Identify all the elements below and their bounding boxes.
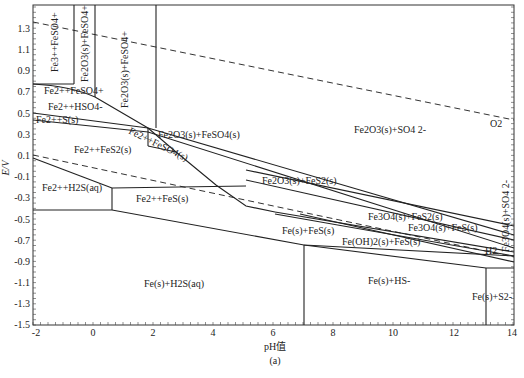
x-tick: 6	[271, 327, 276, 338]
region-label: Fe2++H2S(aq)	[42, 182, 102, 194]
y-tick: -0.7	[14, 235, 30, 246]
region-label: Fe(OH)2(s)+FeS(s)	[342, 236, 420, 248]
y-tick: 0.9	[18, 65, 31, 76]
region-label: Fe2O3(s)+FeSO4+	[119, 31, 131, 108]
x-tick: 0	[91, 327, 96, 338]
y-minor-ticks	[33, 7, 514, 325]
y-tick-labels: 1.3 1.1 0.9 0.7 0.5 0.3 0.1 -0.1 -0.3 -0…	[14, 23, 30, 330]
y-tick: 0.5	[18, 108, 31, 119]
y-tick: -1.1	[14, 277, 30, 288]
x-axis-label: pH值	[264, 340, 286, 352]
x-tick: 14	[507, 327, 517, 338]
region-label: Fe2++FeS2(s)	[74, 144, 131, 156]
region-labels: Fe3++FeSO4+ Fe2O3(s)+FeSO4+ Fe2O3(s)+FeS…	[36, 5, 512, 303]
region-label: Fe2O3(s)+FeSO4+	[79, 5, 91, 82]
x-tick: 8	[331, 327, 336, 338]
region-label: Fe(s)+FeS(s)	[282, 225, 334, 237]
phase-boundaries	[33, 5, 514, 325]
x-tick: 10	[388, 327, 398, 338]
o2-label: O2	[490, 118, 502, 129]
y-tick: 1.3	[18, 23, 31, 34]
region-label: Fe3O4(s)+SO4 2-	[500, 180, 512, 252]
o2-line	[33, 22, 514, 120]
y-tick: -0.9	[14, 256, 30, 267]
region-label: Fe2++FeSO4+	[44, 85, 104, 96]
region-label: Fe3O4(s)+FeS(s)	[408, 222, 478, 234]
y-tick: -0.3	[14, 192, 30, 203]
y-tick: -1.3	[14, 298, 30, 309]
y-tick: -0.5	[14, 214, 30, 225]
region-label: Fe2++S(s)	[36, 114, 78, 126]
y-tick: 0.7	[18, 86, 31, 97]
region-label: Fe3++FeSO4+	[49, 12, 60, 72]
y-tick: 0.1	[18, 150, 31, 161]
y-tick: 1.1	[18, 44, 31, 55]
region-label: Fe(s)+H2S(aq)	[144, 278, 204, 290]
region-label: Fe2++FeS(s)	[136, 193, 188, 205]
h2-label: H2	[485, 245, 497, 256]
region-label: Fe(s)+HS-	[368, 275, 410, 287]
h2-line	[33, 155, 514, 257]
y-tick: -0.1	[14, 171, 30, 182]
y-axis-label: E/V	[0, 159, 11, 177]
x-tick: -2	[32, 327, 40, 338]
region-label: Fe2O3(s)+SO4 2-	[354, 124, 426, 136]
x-tick: 4	[211, 327, 216, 338]
x-tick-labels: -2 0 2 4 6 8 10 12 14	[32, 327, 517, 338]
region-label: Fe(s)+S2-	[472, 291, 512, 303]
region-label: Fe2O3(s)+FeS2(s)	[262, 175, 337, 187]
x-tick: 12	[449, 327, 459, 338]
region-label: Fe2O3(s)+FeSO4(s)	[158, 129, 240, 141]
pourbaix-diagram: 1.3 1.1 0.9 0.7 0.5 0.3 0.1 -0.1 -0.3 -0…	[0, 0, 524, 378]
caption: (a)	[269, 355, 280, 367]
y-tick: 0.3	[18, 129, 31, 140]
x-tick: 2	[151, 327, 156, 338]
region-label: Fe2++HSO4-	[48, 101, 103, 112]
y-tick: -1.5	[14, 319, 30, 330]
